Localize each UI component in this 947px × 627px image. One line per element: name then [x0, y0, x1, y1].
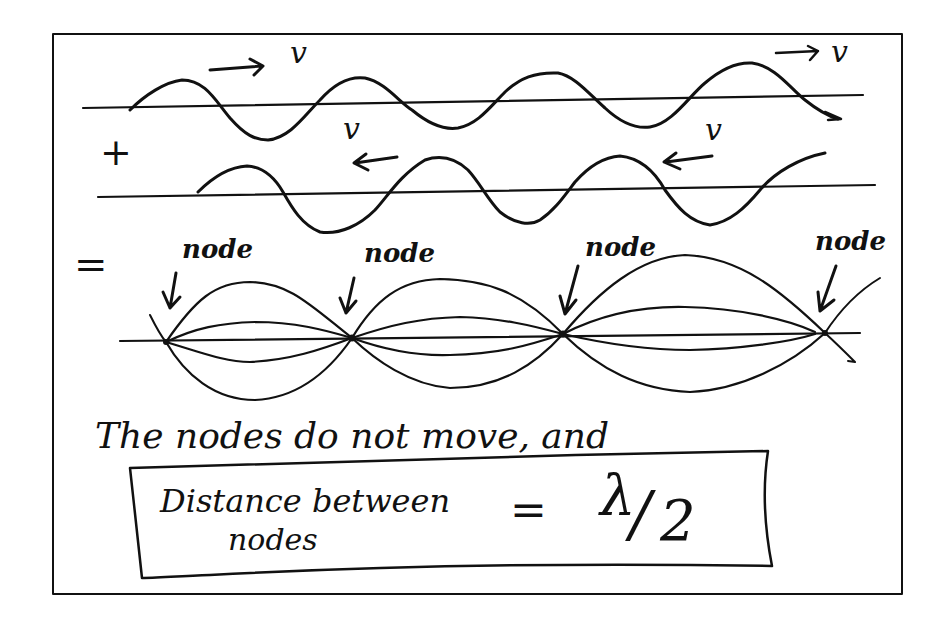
node-arrow-icon-1 [163, 273, 180, 308]
loop-2-inner-top [352, 317, 563, 338]
standing-wave-group: node node node node [120, 226, 886, 400]
wave-left-label-left: v [343, 111, 360, 146]
loop-3-inner-top [563, 307, 815, 334]
arrow-right-icon [210, 59, 263, 75]
standing-wave-axis [120, 333, 860, 341]
loop-3-tail-down [825, 333, 855, 362]
loop-1-inner-bottom [166, 338, 352, 362]
node-point-1 [163, 339, 169, 345]
node-arrow-icon-2 [340, 278, 356, 313]
loop-3-tail-up [825, 278, 880, 333]
plus-operator: + [100, 130, 132, 174]
formula-lhs-line1: Distance between [159, 482, 450, 520]
loop-1-outer-top [166, 282, 352, 342]
node-label-4: node [815, 226, 886, 256]
wave-left-label-right: v [705, 112, 722, 147]
node-label-2: node [364, 238, 435, 268]
formula-equals: = [510, 484, 547, 535]
node-label-1: node [182, 234, 253, 264]
wave-right-group: v v [83, 34, 863, 140]
arrow-left-icon-2 [664, 153, 712, 169]
node-arrow-icon-3 [560, 266, 578, 314]
loop-2-outer-bottom [352, 334, 563, 388]
formula-lhs-line2: nodes [228, 522, 318, 557]
node-label-3: node [585, 232, 656, 262]
diagram-canvas: v v + v v = [0, 0, 947, 627]
node-point-4 [822, 330, 828, 336]
formula-denominator: 2 [659, 488, 696, 553]
caption-text: The nodes do not move, and [95, 415, 609, 456]
wave-right-label-left: v [290, 35, 307, 70]
wave-left-curve [198, 153, 825, 233]
formula-slash: / [625, 477, 656, 550]
formula-box: Distance between nodes = λ / 2 [130, 451, 772, 578]
wave-left-group: v v [98, 111, 875, 233]
arrow-right-icon-2 [776, 46, 818, 60]
arrow-left-icon [354, 154, 397, 170]
node-arrow-icon-4 [818, 266, 836, 311]
node-point-2 [349, 335, 356, 342]
node-point-3 [560, 331, 567, 338]
wave-right-axis [83, 95, 863, 108]
loop-1-tail [150, 315, 166, 342]
equals-operator: = [74, 241, 108, 287]
wave-right-label-right: v [831, 34, 848, 69]
